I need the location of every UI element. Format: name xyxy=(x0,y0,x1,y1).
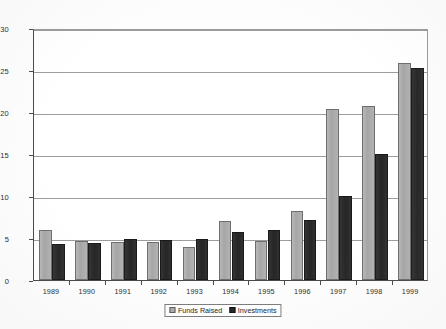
x-tick-label: 1996 xyxy=(282,287,322,296)
y-tick-label: 25 xyxy=(0,67,9,76)
bar-group xyxy=(291,30,317,280)
x-tick-label: 1992 xyxy=(139,287,179,296)
bar-group xyxy=(255,30,281,280)
x-tick-mark xyxy=(248,281,249,285)
bar-funds-raised xyxy=(362,106,375,280)
chart-legend: Funds Raised Investments xyxy=(164,304,281,317)
x-tick-mark xyxy=(69,281,70,285)
bar-group xyxy=(75,30,101,280)
bar-group xyxy=(326,30,352,280)
legend-item-investments: Investments xyxy=(229,307,276,314)
light-gray-swatch-icon xyxy=(169,307,175,313)
x-tick-label: 1998 xyxy=(354,287,394,296)
bar-group xyxy=(147,30,173,280)
bar-funds-raised xyxy=(326,109,339,280)
bar-group xyxy=(362,30,388,280)
x-tick-mark xyxy=(356,281,357,285)
x-tick-mark xyxy=(213,281,214,285)
x-tick-label: 1999 xyxy=(390,287,430,296)
bar-chart: 051015202530 198919901991199219931994199… xyxy=(0,0,446,329)
x-tick-mark xyxy=(105,281,106,285)
bar-investments xyxy=(304,220,317,280)
y-tick-label: 30 xyxy=(0,25,9,34)
bar-funds-raised xyxy=(398,63,411,280)
x-tick-label: 1989 xyxy=(31,287,71,296)
bar-investments xyxy=(52,244,65,280)
bar-investments xyxy=(339,196,352,280)
x-tick-label: 1990 xyxy=(67,287,107,296)
bar-funds-raised xyxy=(219,221,232,280)
y-tick-label: 10 xyxy=(0,193,9,202)
bar-investments xyxy=(196,239,209,280)
bar-group xyxy=(111,30,137,280)
y-tick-label: 0 xyxy=(0,277,9,286)
bar-series-container xyxy=(34,30,427,280)
x-tick-mark xyxy=(177,281,178,285)
x-tick-label: 1993 xyxy=(175,287,215,296)
bar-group xyxy=(183,30,209,280)
x-tick-label: 1995 xyxy=(246,287,286,296)
x-tick-mark xyxy=(392,281,393,285)
legend-label-funds-raised: Funds Raised xyxy=(178,307,222,314)
y-tick-label: 15 xyxy=(0,151,9,160)
legend-item-funds-raised: Funds Raised xyxy=(169,307,222,314)
bar-funds-raised xyxy=(111,242,124,280)
bar-funds-raised xyxy=(183,247,196,280)
bar-investments xyxy=(232,232,245,280)
y-tick-label: 20 xyxy=(0,109,9,118)
x-tick-label: 1994 xyxy=(211,287,251,296)
bar-group xyxy=(219,30,245,280)
bar-investments xyxy=(268,230,281,280)
bar-group xyxy=(398,30,424,280)
bar-investments xyxy=(124,239,137,280)
y-tick-label: 5 xyxy=(0,235,9,244)
legend-label-investments: Investments xyxy=(238,307,277,314)
black-swatch-icon xyxy=(229,307,235,313)
bar-funds-raised xyxy=(39,230,52,280)
bar-funds-raised xyxy=(291,211,304,280)
bar-investments xyxy=(160,240,173,280)
bar-funds-raised xyxy=(147,242,160,280)
x-tick-label: 1991 xyxy=(103,287,143,296)
y-tick-mark xyxy=(29,281,33,282)
x-tick-mark xyxy=(284,281,285,285)
x-tick-label: 1997 xyxy=(318,287,358,296)
x-tick-mark xyxy=(320,281,321,285)
bar-funds-raised xyxy=(255,241,268,280)
bar-group xyxy=(39,30,65,280)
plot-area xyxy=(33,29,428,281)
bar-investments xyxy=(88,243,101,280)
bar-funds-raised xyxy=(75,241,88,280)
bar-investments xyxy=(375,154,388,280)
x-tick-mark xyxy=(141,281,142,285)
bar-investments xyxy=(411,68,424,280)
